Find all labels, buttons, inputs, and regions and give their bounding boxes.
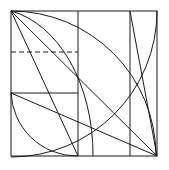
- geometry-canvas: [0, 0, 169, 170]
- geometric-figure: [0, 0, 169, 170]
